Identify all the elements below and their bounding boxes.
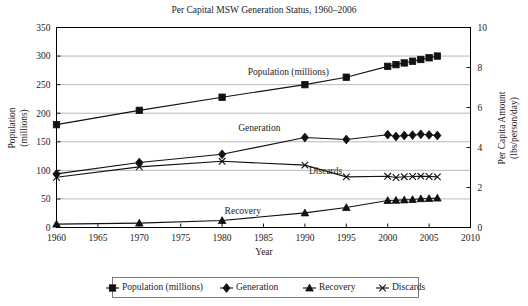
x-axis-tick-label: 1975 [171,233,190,243]
y-axis-right-tick-label: 4 [478,143,483,153]
legend-label: Population (millions) [122,282,203,293]
data-point-square [426,55,432,61]
data-point-square [385,63,391,69]
x-axis-tick-label: 2005 [420,233,439,243]
y-axis-left-title-line2: (millions) [19,109,30,146]
annotation-population-millions: Population (millions) [248,67,329,78]
annotation-generation: Generation [238,123,280,133]
data-point-square [409,58,415,64]
y-axis-left-tick-label: 350 [36,23,51,33]
x-axis-tick-label: 1995 [337,233,356,243]
y-axis-right-title: Per Capita Amount (lbs/person/day) [497,91,520,164]
y-axis-left-tick-label: 100 [36,166,51,176]
y-axis-right-tick-label: 2 [478,183,483,193]
y-axis-left-tick-label: 150 [36,137,51,147]
data-point-square [136,107,142,113]
y-axis-right-tick-label: 6 [478,103,483,113]
legend-label: Recovery [319,282,356,292]
y-axis-right-title-line1: Per Capita Amount [497,91,507,164]
annotation-discards: Discards [309,166,343,176]
data-point-square [401,60,407,66]
data-point-square [219,94,225,100]
x-axis-tick-label: 1980 [213,233,232,243]
chart-background [0,0,528,306]
y-axis-left-tick-label: 250 [36,80,51,90]
data-point-square [393,61,399,67]
legend-marker-square [109,285,115,291]
legend-label: Discards [392,282,426,292]
chart-title: Per Capital MSW Generation Status, 1960–… [171,5,356,15]
x-axis-tick-label: 2000 [378,233,397,243]
data-point-square [53,121,59,127]
x-axis-tick-label: 1965 [88,233,107,243]
annotation-recovery: Recovery [225,206,262,216]
y-axis-left-tick-label: 50 [41,194,51,204]
y-axis-right-tick-label: 0 [478,223,483,233]
y-axis-right-title-line2: (lbs/person/day) [509,97,520,159]
legend-label: Generation [236,282,278,292]
y-axis-right-tick-label: 8 [478,63,483,73]
y-axis-right-tick-label: 10 [478,23,488,33]
y-axis-left-title: Population (millions) [7,107,30,148]
y-axis-left-tick-label: 200 [36,109,51,119]
per-capita-msw-generation-chart: Per Capital MSW Generation Status, 1960–… [0,0,528,306]
x-axis-tick-label: 2010 [461,233,480,243]
data-point-square [302,81,308,87]
y-axis-left-title-line1: Population [7,107,17,148]
x-axis-title: Year [255,247,273,257]
y-axis-left-tick-label: 300 [36,51,51,61]
x-axis-tick-label: 1960 [47,233,66,243]
data-point-square [343,74,349,80]
y-axis-left-tick-label: 0 [46,223,51,233]
data-point-square [418,56,424,62]
x-axis-tick-label: 1985 [254,233,273,243]
x-axis-tick-label: 1990 [295,233,314,243]
chart-figure: Per Capital MSW Generation Status, 1960–… [0,0,528,306]
data-point-square [434,53,440,59]
x-axis-tick-label: 1970 [130,233,149,243]
